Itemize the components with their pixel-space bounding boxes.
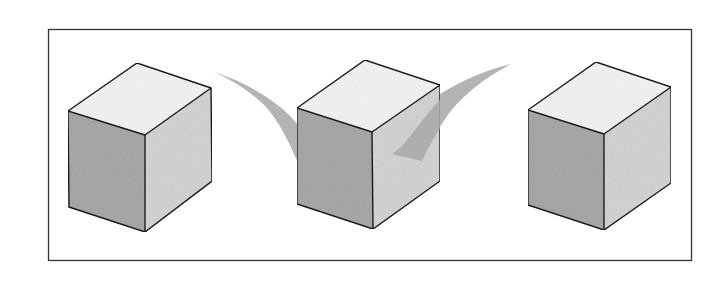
cube-left	[68, 63, 212, 232]
cube-diagram	[0, 0, 724, 285]
figure-canvas	[0, 0, 724, 285]
cube-right	[528, 62, 671, 230]
arrow-left-swoosh	[214, 72, 297, 160]
